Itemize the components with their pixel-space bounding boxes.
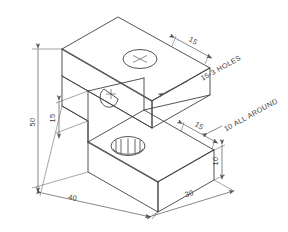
hole-vertical-face: [100, 89, 118, 107]
lower-slab-rear-edge: [144, 95, 210, 110]
hole-lower-face: [111, 137, 145, 156]
ext-line-step-bottom: [56, 121, 88, 133]
ext-line-height-bottom: [32, 172, 88, 188]
notch-underside-edge: [62, 76, 88, 91]
upper-slab-left-face: [62, 49, 152, 128]
solid-body-outline: [62, 17, 214, 212]
leader-line-fillet-callout: [208, 126, 222, 133]
notch-inner-top-edge: [88, 91, 152, 128]
ext-line-rightheight-bottom: [214, 175, 225, 180]
note-hole-callout: 15-3 HOLES: [164, 53, 243, 93]
dim-label-overall-width: 30: [184, 188, 195, 199]
ext-line-step-top: [56, 91, 88, 103]
ext-line-rightheight-top: [214, 145, 225, 150]
hole-vertical-face-arc: [100, 89, 118, 107]
riser-front-vertical-left: [62, 76, 88, 121]
lower-slab-right-face: [158, 150, 214, 212]
dimension-step-height: 15: [48, 91, 88, 134]
dim-label-lower-edge-offset: 15: [193, 120, 205, 132]
lower-slab-left-face: [88, 142, 158, 212]
dim-label-overall-height: 50: [28, 118, 37, 127]
hole-top-face: [123, 50, 157, 69]
hole-top-face-centre-mark: [133, 56, 147, 63]
ext-line-length-end: [148, 212, 158, 218]
dimension-overall-width: 30: [152, 180, 232, 219]
ext-line-width-end: [214, 180, 232, 190]
note-label-fillet-callout: 10 ALL AROUND: [222, 96, 279, 133]
leader-line-hole-callout: [164, 81, 188, 93]
dim-label-right-face-height: 10: [211, 157, 220, 166]
dim-label-step-height: 15: [48, 114, 57, 123]
note-fillet-callout: 10 ALL AROUND: [208, 96, 279, 133]
note-label-hole-callout: 15-3 HOLES: [199, 53, 243, 83]
hole-lower-face-depth-lines: [116, 139, 140, 154]
dim-label-overall-length: 40: [67, 192, 78, 203]
isometric-drawing: 50 15 40 30 15: [0, 0, 288, 232]
hole-vertical-face-centre-mark: [106, 89, 116, 99]
dim-label-top-edge-offset: 15: [187, 35, 199, 47]
dimension-top-edge-offset: 15: [172, 35, 209, 64]
dimension-overall-length: 40: [40, 106, 158, 218]
dimension-overall-height: 50: [28, 49, 88, 188]
riser-front-left-base: [62, 106, 88, 142]
ext-line-topoffset-a: [172, 36, 176, 46]
engineering-drawing-canvas: 50 15 40 30 15: [0, 0, 288, 232]
lower-slab-top-face: [88, 110, 214, 182]
ext-line-loweroffset-a: [181, 122, 184, 132]
